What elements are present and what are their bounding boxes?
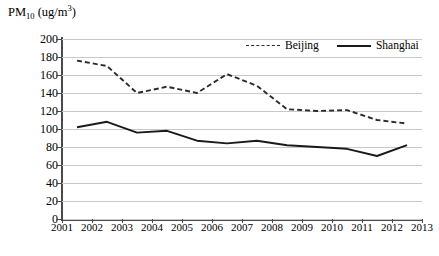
series-layer: [62, 39, 422, 219]
series-line-beijing: [77, 61, 407, 124]
y-axis-tick-label: 200: [18, 33, 58, 45]
x-axis-tick-label: 2003: [105, 222, 139, 233]
y-axis-tick-label: 80: [18, 141, 58, 153]
y-axis-tick-label: 20: [18, 195, 58, 207]
chart-legend: BeijingShanghai: [246, 40, 419, 52]
x-axis-tick-label: 2012: [375, 222, 409, 233]
y-axis-tick-label: 40: [18, 177, 58, 189]
x-axis-tick-label: 2009: [285, 222, 319, 233]
legend-swatch-solid: [337, 45, 371, 47]
x-axis-tick-label: 2004: [135, 222, 169, 233]
x-axis-tick-label: 2006: [195, 222, 229, 233]
legend-entry-beijing[interactable]: Beijing: [246, 40, 319, 52]
legend-label: Beijing: [285, 40, 319, 52]
x-axis-tick-label: 2013: [405, 222, 439, 233]
y-axis-tick-label: 60: [18, 159, 58, 171]
x-axis-tick-label: 2010: [315, 222, 349, 233]
y-axis-tick-labels: 020406080100120140160180200: [14, 0, 58, 256]
y-axis-tick-label: 140: [18, 87, 58, 99]
x-axis-tick-label: 2002: [75, 222, 109, 233]
y-axis-tick-label: 120: [18, 105, 58, 117]
x-axis-tick-label: 2011: [345, 222, 379, 233]
legend-label: Shanghai: [376, 40, 419, 52]
x-axis-tick-label: 2005: [165, 222, 199, 233]
x-axis-tick-label: 2001: [45, 222, 79, 233]
pm10-line-chart: PM10 (ug/m3) 020406080100120140160180200…: [0, 0, 439, 256]
series-line-shanghai: [77, 122, 407, 156]
x-axis-tick-labels: 2001200220032004200520062007200820092010…: [0, 222, 439, 242]
plot-area: [62, 39, 422, 219]
x-axis-tick-label: 2007: [225, 222, 259, 233]
legend-swatch-dashed: [246, 45, 280, 46]
y-axis-title-unit-close: ): [72, 5, 76, 19]
y-axis-tick-label: 180: [18, 51, 58, 63]
y-axis-tick-label: 100: [18, 123, 58, 135]
x-axis-tick-label: 2008: [255, 222, 289, 233]
legend-entry-shanghai[interactable]: Shanghai: [337, 40, 419, 52]
y-axis-tick-label: 160: [18, 69, 58, 81]
